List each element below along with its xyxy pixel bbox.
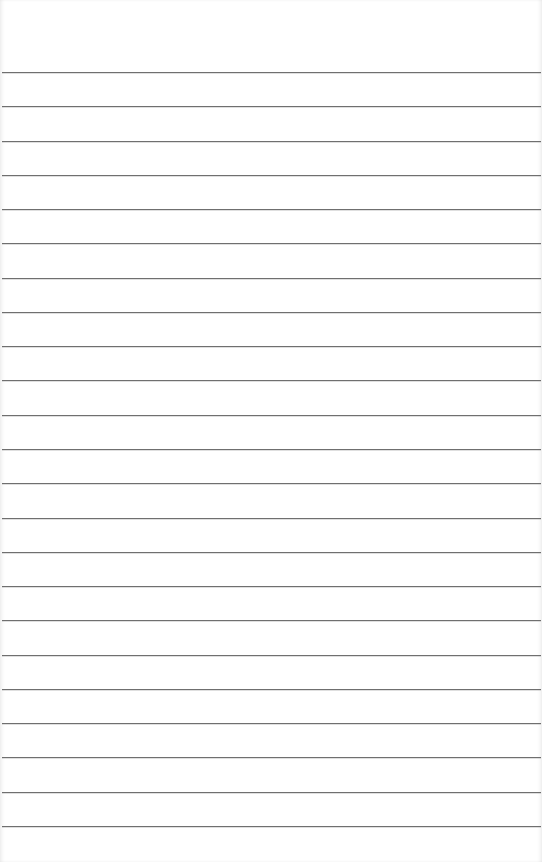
ruled-line	[2, 243, 541, 244]
ruled-line	[2, 415, 541, 416]
ruled-line	[2, 72, 541, 73]
ruled-line	[2, 586, 541, 587]
ruled-line	[2, 552, 541, 553]
ruled-line	[2, 312, 541, 313]
ruled-line	[2, 655, 541, 656]
lined-paper-page	[0, 0, 542, 862]
ruled-line	[2, 106, 541, 107]
ruled-line	[2, 792, 541, 793]
ruled-line	[2, 483, 541, 484]
ruled-line	[2, 449, 541, 450]
ruled-line	[2, 689, 541, 690]
ruled-line	[2, 209, 541, 210]
ruled-line	[2, 380, 541, 381]
ruled-line	[2, 518, 541, 519]
ruled-line	[2, 757, 541, 758]
ruled-line	[2, 620, 541, 621]
ruled-line	[2, 175, 541, 176]
ruled-line	[2, 723, 541, 724]
ruled-line	[2, 278, 541, 279]
ruled-line	[2, 141, 541, 142]
ruled-lines	[0, 0, 542, 862]
ruled-line	[2, 346, 541, 347]
ruled-line	[2, 826, 541, 827]
